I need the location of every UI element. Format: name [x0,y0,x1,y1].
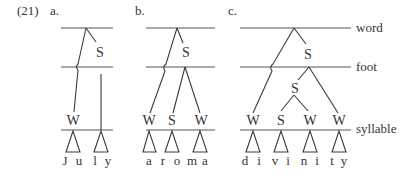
segment: i [315,153,319,168]
syllable-triangle [193,131,207,152]
node-S-inner: S [291,81,299,96]
segment: i [257,153,261,168]
panel-b-label: b. [135,3,145,18]
syllable-triangle [165,131,179,152]
segment: l [93,153,97,168]
node-W: W [194,113,208,128]
node-W: W [246,113,260,128]
branch [177,28,183,43]
metrical-tree-diagram: (21) a. b. c. S W J u l y S W S W [0,0,410,178]
tier-label-syllable: syllable [356,121,397,136]
branch-crossing [74,28,86,112]
panel-b-tree: S W S W a r o m a [142,28,215,168]
segment: y [341,153,348,168]
syllable-triangle [66,131,80,152]
branch [173,67,185,113]
node-S: S [96,45,104,60]
segment: y [105,153,112,168]
branch [309,67,338,113]
syllable-triangle [303,131,317,152]
node-W: W [66,113,80,128]
branch-crossing [150,28,177,113]
syllable-triangle [94,131,108,152]
branch-crossing [253,28,294,113]
node-S: S [182,45,190,60]
segment: t [330,153,334,168]
tier-label-word: word [356,20,383,35]
node-W: W [332,113,346,128]
node-S: S [304,47,312,62]
segment: r [161,153,166,168]
node-W: W [142,113,156,128]
node-S: S [168,113,176,128]
segment: i [286,153,290,168]
syllable-triangle [332,131,346,152]
branch [298,67,309,80]
branch [86,28,96,42]
panel-a-tree: S W J u l y [61,28,113,168]
segment: u [76,153,83,168]
branch [185,67,200,113]
branch [294,28,306,44]
node-S: S [277,113,285,128]
node-W: W [303,113,317,128]
panel-c-tree: S S W S W W d i v i n i t y [240,28,351,168]
segment: d [242,153,249,168]
segment: n [301,153,308,168]
panel-c-label: c. [228,3,237,18]
example-number: (21) [17,3,39,18]
branch [281,95,294,111]
segment: o [174,153,181,168]
syllable-triangle [274,131,288,152]
segment: a [146,153,152,168]
segment: m [187,153,197,168]
syllable-triangle [143,131,156,152]
branch [294,95,308,111]
segment: a [202,153,208,168]
panel-a-label: a. [50,3,59,18]
syllable-triangle [246,131,260,152]
segment: v [272,153,279,168]
tier-label-foot: foot [356,59,377,74]
segment: J [62,153,67,168]
